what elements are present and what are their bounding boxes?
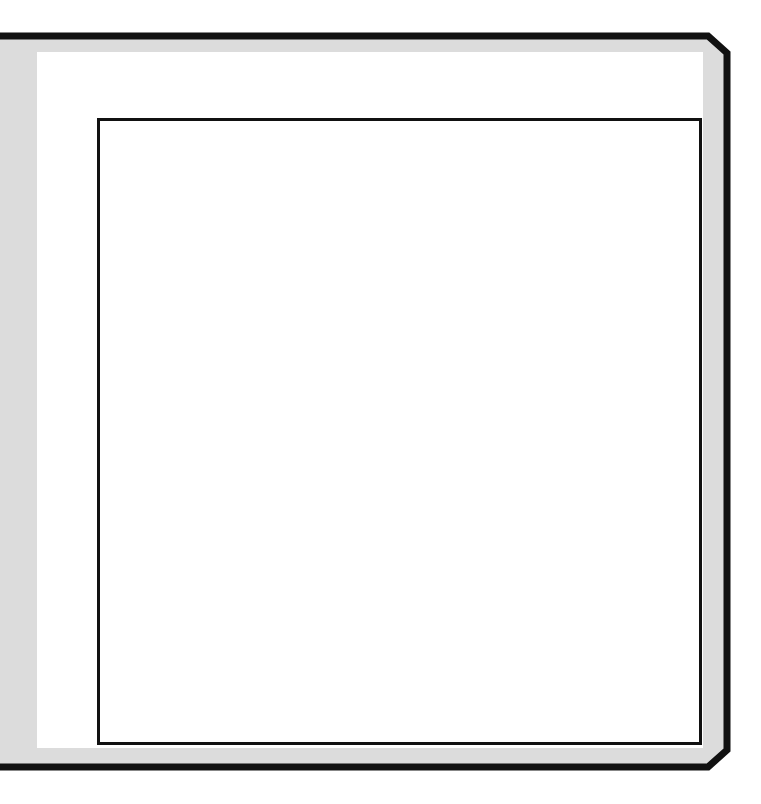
puzzle-grid[interactable] bbox=[97, 118, 702, 745]
